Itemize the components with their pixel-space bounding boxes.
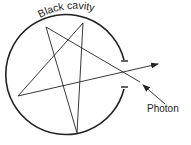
photon-reflection-path: [18, 23, 140, 133]
black-cavity-diagram: Black cavity Photon: [0, 0, 191, 145]
photon-label: Photon: [147, 103, 179, 114]
cavity-wall: [6, 15, 124, 135]
photon-arrow: [143, 85, 165, 104]
black-cavity-label: Black cavity: [36, 0, 97, 20]
